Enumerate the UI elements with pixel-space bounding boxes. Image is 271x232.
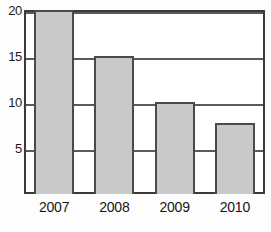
y-axis-tick-10: 10: [0, 96, 22, 109]
x-axis-tick-2010: 2010: [205, 200, 265, 214]
x-axis-tick-2007: 2007: [24, 200, 84, 214]
bar-chart: 20 15 10 5 2007 2008 2009 2010: [0, 0, 271, 232]
bar-2009: [155, 102, 195, 194]
x-axis-tick-2008: 2008: [84, 200, 144, 214]
y-axis-tick-15: 15: [0, 50, 22, 63]
bars-layer: [24, 10, 265, 194]
x-axis-tick-2009: 2009: [145, 200, 205, 214]
bar-2007: [34, 10, 74, 194]
y-axis-tick-5: 5: [0, 142, 22, 155]
bar-2010: [215, 123, 255, 194]
bar-2008: [94, 56, 134, 194]
y-axis-tick-20: 20: [0, 4, 22, 17]
